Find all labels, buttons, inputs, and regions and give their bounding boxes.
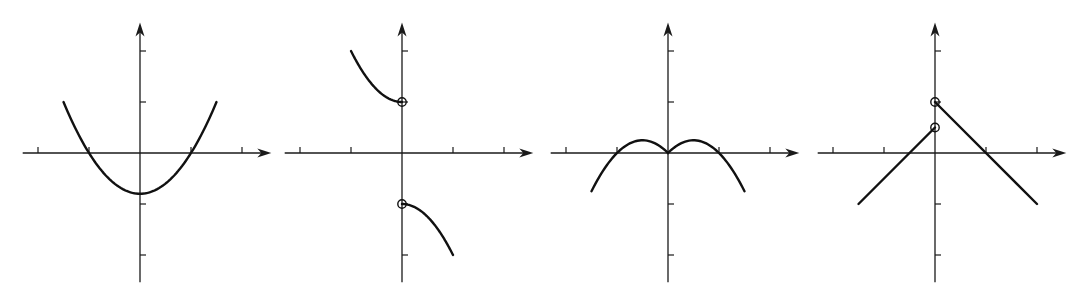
graph-panel-2 <box>285 23 534 283</box>
curve-upper-branch <box>351 51 402 102</box>
graph-panel-4 <box>818 23 1067 283</box>
function-graphs-figure <box>0 0 1068 298</box>
graph-panel-1 <box>23 23 272 283</box>
graph-panel-3 <box>551 23 800 283</box>
curve-left-segment <box>859 128 936 205</box>
curve-lower-branch <box>402 204 453 255</box>
